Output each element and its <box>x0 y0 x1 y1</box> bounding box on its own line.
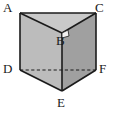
vertex-label-f: F <box>99 62 106 75</box>
vertex-label-e: E <box>57 96 65 109</box>
vertex-label-b: B <box>56 34 65 47</box>
triangular-prism-figure: A B C D E F <box>0 0 116 113</box>
vertex-label-d: D <box>3 62 12 75</box>
vertex-label-a: A <box>3 1 12 14</box>
vertex-label-c: C <box>95 1 104 14</box>
